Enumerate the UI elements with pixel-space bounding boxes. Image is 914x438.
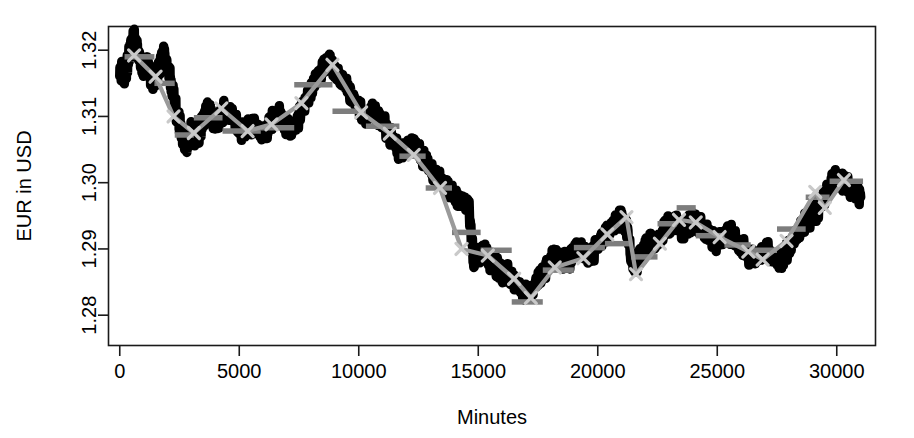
x-tick-label-4: 20000 (570, 360, 626, 382)
eur-usd-line-chart: 050001000015000200002500030000 1.281.291… (0, 0, 914, 438)
y-tick-label-2: 1.30 (78, 163, 100, 202)
y-tick-label-4: 1.32 (78, 31, 100, 70)
x-tick-label-2: 10000 (331, 360, 387, 382)
x-tick-label-3: 15000 (450, 360, 506, 382)
y-tick-label-3: 1.31 (78, 97, 100, 136)
x-tick-label-5: 25000 (689, 360, 745, 382)
y-axis-title: EUR in USD (13, 130, 35, 241)
x-tick-label-0: 0 (114, 360, 125, 382)
y-tick-label-1: 1.29 (78, 229, 100, 268)
chart-container: 050001000015000200002500030000 1.281.291… (0, 0, 914, 438)
x-tick-label-1: 5000 (217, 360, 262, 382)
x-axis-title: Minutes (457, 406, 527, 428)
x-tick-label-6: 30000 (809, 360, 865, 382)
y-tick-label-0: 1.28 (78, 296, 100, 335)
